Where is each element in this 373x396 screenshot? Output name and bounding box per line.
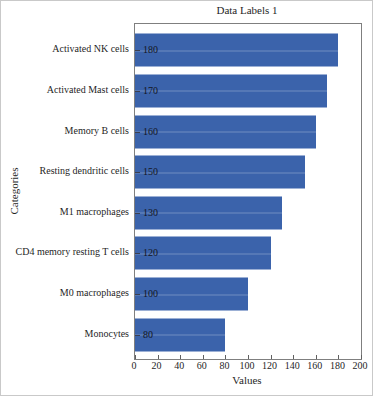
x-tick-label: 20 <box>152 361 162 371</box>
x-tick <box>158 355 159 359</box>
x-tick <box>338 355 339 359</box>
x-tick <box>271 355 272 359</box>
bars-container: 18017016015013012010080 <box>135 24 361 359</box>
category-axis: Activated NK cellsActivated Mast cellsMe… <box>1 23 131 358</box>
y-tick <box>135 213 140 214</box>
category-label: CD4 memory resting T cells <box>15 247 131 257</box>
x-tick-label: 180 <box>330 361 345 371</box>
category-label: Monocytes <box>85 329 131 339</box>
chart-title: Data Labels 1 <box>134 4 360 16</box>
x-axis-tick-labels: 020406080100120140160180200 <box>134 361 360 373</box>
bar-value-label: 100 <box>143 289 158 299</box>
bar-row: 130 <box>135 193 361 234</box>
category-row: Memory B cells <box>1 110 131 151</box>
category-row: CD4 memory resting T cells <box>1 232 131 273</box>
bar-value-label: 80 <box>143 330 153 340</box>
category-label: M0 macrophages <box>60 288 131 298</box>
x-tick <box>203 355 204 359</box>
bar-row: 80 <box>135 314 361 355</box>
x-tick <box>135 355 136 359</box>
bar-value-label: 150 <box>143 167 158 177</box>
category-label: Memory B cells <box>65 126 131 136</box>
y-tick <box>135 335 140 336</box>
x-tick-label: 100 <box>240 361 255 371</box>
category-row: Activated NK cells <box>1 29 131 70</box>
bar-value-label: 120 <box>143 248 158 258</box>
x-tick <box>316 355 317 359</box>
y-tick <box>135 132 140 133</box>
category-row: M1 macrophages <box>1 192 131 233</box>
x-tick <box>293 355 294 359</box>
bar-value-label: 180 <box>143 45 158 55</box>
bar-row: 180 <box>135 30 361 71</box>
x-tick <box>180 355 181 359</box>
x-tick-label: 40 <box>174 361 184 371</box>
bar-row: 160 <box>135 111 361 152</box>
x-tick <box>225 355 226 359</box>
x-tick-label: 0 <box>132 361 137 371</box>
bar <box>135 156 305 189</box>
category-row: Monocytes <box>1 313 131 354</box>
bar-value-label: 130 <box>143 208 158 218</box>
x-tick <box>248 355 249 359</box>
category-label: M1 macrophages <box>60 207 131 217</box>
category-row: Activated Mast cells <box>1 70 131 111</box>
bar <box>135 74 327 107</box>
x-tick-label: 120 <box>262 361 277 371</box>
bar-row: 150 <box>135 152 361 193</box>
bar-chart-figure: Data Labels 1 Categories Activated NK ce… <box>0 0 373 396</box>
category-row: M0 macrophages <box>1 273 131 314</box>
plot-area: 18017016015013012010080 <box>134 23 362 360</box>
x-tick-label: 80 <box>219 361 229 371</box>
y-tick <box>135 50 140 51</box>
category-row: Resting dendritic cells <box>1 151 131 192</box>
bar <box>135 34 338 67</box>
bar-row: 120 <box>135 233 361 274</box>
y-tick <box>135 172 140 173</box>
category-label: Resting dendritic cells <box>40 166 131 176</box>
x-tick-label: 160 <box>307 361 322 371</box>
category-label: Activated Mast cells <box>47 85 131 95</box>
bar-row: 170 <box>135 71 361 112</box>
x-axis-label: Values <box>134 374 360 386</box>
x-tick <box>361 355 362 359</box>
x-tick-label: 140 <box>285 361 300 371</box>
bar <box>135 115 316 148</box>
bar-row: 100 <box>135 274 361 315</box>
category-label: Activated NK cells <box>52 44 131 54</box>
bar-value-label: 160 <box>143 127 158 137</box>
x-tick-label: 200 <box>353 361 368 371</box>
y-tick <box>135 91 140 92</box>
y-tick <box>135 294 140 295</box>
y-tick <box>135 253 140 254</box>
x-tick-label: 60 <box>197 361 207 371</box>
bar-value-label: 170 <box>143 86 158 96</box>
